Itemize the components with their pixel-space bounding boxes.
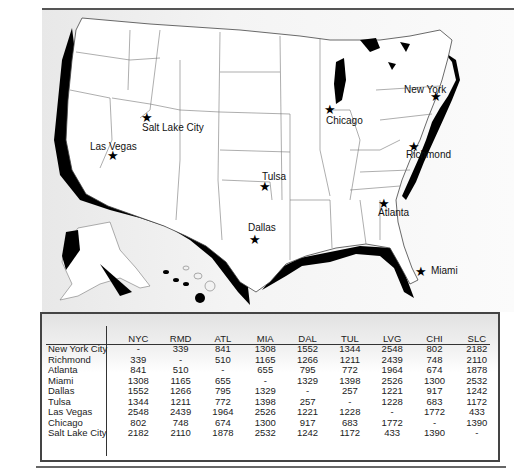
row-label: Salt Lake City [48,428,117,439]
table-row: Salt Lake City21822110187825321242117243… [48,428,498,439]
distance-cell: 2182 [117,428,159,439]
distance-cell: 841 [202,344,244,355]
distance-cell: 2439 [159,407,201,418]
distance-cell: 1172 [329,428,371,439]
distance-cell: 802 [413,344,455,355]
table-row: Atlanta841510-65579577219646741878 [48,365,498,376]
city-star-icon: ★ [415,265,427,278]
distance-cell: 1221 [371,386,413,397]
distance-cell: 1878 [456,365,498,376]
distance-cell: 1221 [286,407,328,418]
distance-cell: - [202,365,244,376]
distance-cell: 2532 [244,428,286,439]
distance-cell: 2110 [159,428,201,439]
distance-cell: 2548 [371,344,413,355]
distance-cell: 655 [244,365,286,376]
city-label: Chicago [326,115,363,126]
distance-cell: 2182 [456,344,498,355]
distance-cell: 433 [371,428,413,439]
distance-cell: - [286,386,328,397]
distance-cell: 433 [456,407,498,418]
distance-cell: 795 [202,386,244,397]
distance-cell: 2526 [244,407,286,418]
distance-cell: 1552 [286,344,328,355]
distance-cell: 1964 [202,407,244,418]
distance-cell: - [117,344,159,355]
city-label: Atlanta [378,207,409,218]
distance-cell: 1242 [286,428,328,439]
city-star-icon: ★ [249,233,261,246]
hawaii [163,270,205,303]
table-row: Dallas155212667951329-25712219171242 [48,386,498,397]
distance-cell: 510 [159,365,201,376]
distance-cell: 1772 [413,407,455,418]
distance-cell: - [456,428,498,439]
distance-cell: - [371,407,413,418]
city-label: Tulsa [262,171,286,182]
distance-cell: 2548 [117,407,159,418]
distance-cell: 1329 [244,386,286,397]
distance-cell: 1228 [329,407,371,418]
distance-cell: 1878 [202,428,244,439]
distance-cell: 1242 [456,386,498,397]
city-label: Salt Lake City [142,122,204,133]
bottom-rule [36,466,506,468]
distance-cell: 795 [286,365,328,376]
row-label: New York City [48,344,117,355]
city-label: Miami [431,265,458,276]
distance-table: NYC RMD ATL MIA DAL TUL LVG CHI SLC New … [48,332,498,439]
city-label: Richmond [406,149,451,160]
distance-cell: 1964 [371,365,413,376]
city-label: Las Vegas [90,141,137,152]
distance-cell: 841 [117,365,159,376]
distance-cell: 674 [413,365,455,376]
distance-cell: 1344 [329,344,371,355]
row-label: Atlanta [48,365,117,376]
row-label: Las Vegas [48,407,117,418]
distance-cell: 1308 [244,344,286,355]
distance-cell: 257 [329,386,371,397]
city-label: Dallas [248,222,276,233]
distance-cell: 1266 [159,386,201,397]
table-row: New York City-33984113081552134425488022… [48,344,498,355]
table-row: Las Vegas254824391964252612211228-177243… [48,407,498,418]
distance-cell: 1390 [413,428,455,439]
distance-cell: 917 [413,386,455,397]
city-label: New York [404,84,446,95]
distance-cell: 1552 [117,386,159,397]
distance-cell: 772 [329,365,371,376]
row-label: Dallas [48,386,117,397]
distance-table-frame: NYC RMD ATL MIA DAL TUL LVG CHI SLC New … [40,312,500,462]
distance-cell: 339 [159,344,201,355]
